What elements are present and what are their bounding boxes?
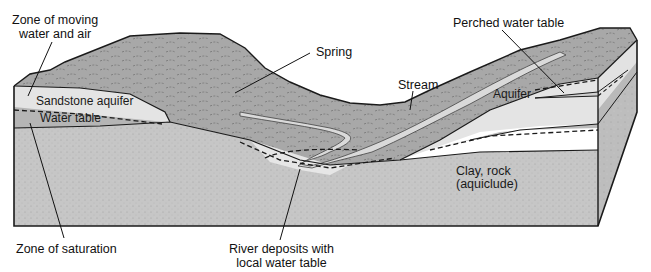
label-perched-water-table: Perched water table	[453, 16, 564, 30]
label-sandstone-aquifer: Sandstone aquifer	[36, 95, 133, 108]
label-water-table: Water table	[40, 112, 101, 125]
label-river-deposits: River deposits with local water table	[229, 242, 334, 270]
label-zone-of-saturation: Zone of saturation	[16, 242, 117, 256]
label-aquifer: Aquifer	[493, 88, 531, 101]
label-clay-rock-aquiclude: Clay, rock (aquiclude)	[456, 165, 518, 191]
label-zone-moving-water-air: Zone of moving water and air	[12, 13, 98, 41]
label-stream: Stream	[398, 78, 438, 92]
label-spring: Spring	[316, 45, 352, 59]
